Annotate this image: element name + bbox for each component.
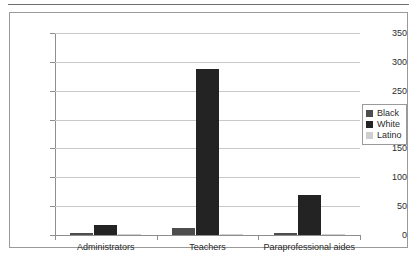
bar (322, 234, 345, 235)
bar (70, 233, 93, 235)
legend-item[interactable]: White (366, 119, 402, 130)
bar (274, 233, 297, 235)
y-axis-tick-label: 300 (373, 57, 407, 66)
gridline (55, 62, 360, 63)
chart-page: 050100150200250300350 AdministratorsTeac… (0, 0, 417, 256)
category-axis-label: Paraprofessional aides (263, 242, 355, 252)
category-axis-tick (258, 235, 259, 240)
category-axis-label: Teachers (189, 242, 226, 252)
legend-label: Black (377, 108, 399, 119)
y-axis-tick-label: 0 (373, 231, 407, 240)
gridline (55, 33, 360, 34)
bar (220, 234, 243, 235)
bar (298, 195, 321, 235)
legend-label: White (377, 119, 400, 130)
legend-swatch-black-icon (366, 110, 373, 117)
y-axis-tick-label: 350 (373, 29, 407, 38)
legend-item[interactable]: Black (366, 108, 402, 119)
y-axis-tick-label: 50 (373, 202, 407, 211)
category-axis-tick (55, 235, 56, 240)
chart-figure-frame: 050100150200250300350 AdministratorsTeac… (9, 12, 408, 248)
axis-baseline (55, 235, 360, 236)
chart-legend: Black White Latino (362, 104, 407, 145)
plot-area (55, 33, 360, 235)
y-axis-tick-label: 150 (373, 144, 407, 153)
legend-swatch-latino-icon (366, 132, 373, 139)
category-axis-tick (360, 235, 361, 240)
legend-swatch-white-icon (366, 121, 373, 128)
legend-item[interactable]: Latino (366, 130, 402, 141)
category-axis-tick (157, 235, 158, 240)
bar (118, 234, 141, 235)
y-axis-tick-label: 250 (373, 86, 407, 95)
category-axis-label: Administrators (77, 242, 135, 252)
bar (94, 225, 117, 235)
bar (196, 69, 219, 235)
y-axis-tick-label: 100 (373, 173, 407, 182)
bar (172, 228, 195, 235)
top-divider-rule (8, 4, 409, 5)
legend-label: Latino (377, 130, 402, 141)
